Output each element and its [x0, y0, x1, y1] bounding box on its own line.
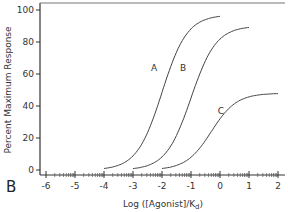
curve-label-c: C: [218, 106, 224, 116]
y-tick-label: 60: [23, 69, 35, 79]
y-axis-title: Percent Maximum Response: [3, 26, 13, 154]
dose-response-chart: 020406080100 -6-5-4-3-2-1012 ABC Percent…: [0, 0, 288, 212]
x-tick-label: -3: [129, 181, 138, 191]
x-axis-title-close: ): [200, 199, 204, 209]
panel-label: B: [6, 178, 16, 196]
x-tick-label: 0: [217, 181, 223, 191]
x-tick-label: 2: [275, 181, 281, 191]
y-tick-label: 20: [23, 133, 35, 143]
x-tick-label: -6: [42, 181, 51, 191]
curve-label-a: A: [151, 63, 158, 73]
y-axis: 020406080100: [17, 5, 40, 175]
plot-frame: [40, 3, 285, 175]
x-tick-label: -4: [100, 181, 109, 191]
y-tick-label: 80: [23, 37, 35, 47]
x-tick-label: -5: [71, 181, 80, 191]
x-axis-title-main: Log ([Agonist]/K: [123, 199, 196, 209]
curve-b: [133, 27, 249, 168]
y-tick-label: 0: [28, 165, 34, 175]
y-tick-label: 40: [23, 101, 35, 111]
x-axis: -6-5-4-3-2-1012: [42, 171, 281, 191]
curves: ABC: [104, 16, 278, 168]
x-tick-label: -1: [187, 181, 196, 191]
x-tick-label: 1: [246, 181, 252, 191]
curve-label-b: B: [180, 63, 186, 73]
curve-a: [104, 16, 220, 168]
x-tick-label: -2: [158, 181, 167, 191]
y-tick-label: 100: [17, 5, 34, 15]
x-axis-title: Log ([Agonist]/Kd): [123, 199, 203, 211]
